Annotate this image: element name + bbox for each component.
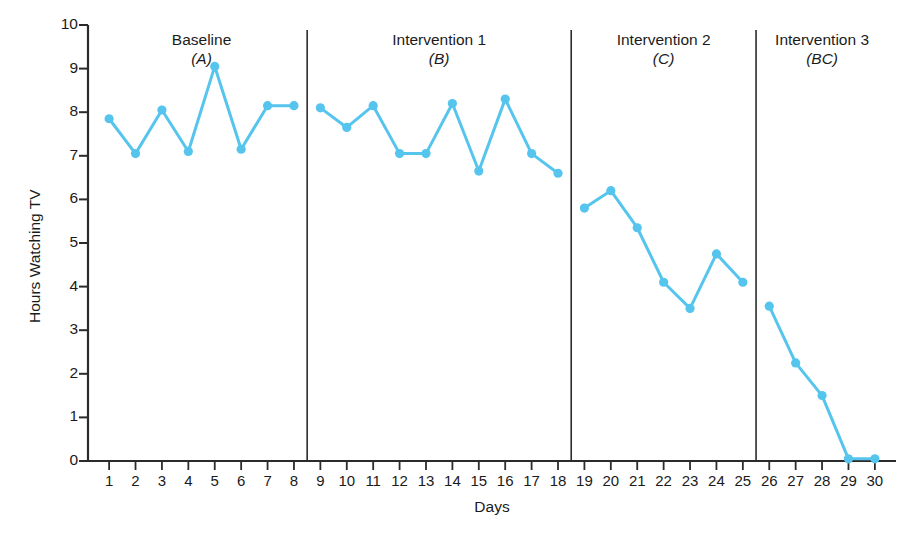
data-point (105, 114, 114, 123)
data-point (421, 149, 430, 158)
y-tick-label: 2 (30, 364, 78, 382)
x-tick-label: 27 (782, 472, 810, 489)
y-tick-label: 9 (30, 59, 78, 77)
data-point (263, 101, 272, 110)
data-point (289, 101, 298, 110)
single-subject-line-chart: 0123456789101234567891011121314151617181… (0, 0, 914, 539)
x-tick-label: 29 (834, 472, 862, 489)
data-point (131, 149, 140, 158)
y-tick-label: 8 (30, 102, 78, 120)
data-point (659, 278, 668, 287)
x-tick-label: 7 (254, 472, 282, 489)
data-point (157, 105, 166, 114)
x-tick-label: 19 (570, 472, 598, 489)
x-tick-label: 1 (95, 472, 123, 489)
x-tick-label: 30 (861, 472, 889, 489)
data-point (685, 304, 694, 313)
data-point (633, 223, 642, 232)
data-point (501, 95, 510, 104)
x-tick-label: 18 (544, 472, 572, 489)
data-point (712, 249, 721, 258)
data-point (765, 302, 774, 311)
x-tick-label: 16 (491, 472, 519, 489)
phase-label-intervention-1: Intervention 1(B) (329, 30, 549, 68)
data-point (606, 186, 615, 195)
x-tick-label: 3 (148, 472, 176, 489)
data-point (342, 123, 351, 132)
x-tick-label: 15 (465, 472, 493, 489)
data-point (870, 454, 879, 463)
data-point (316, 103, 325, 112)
data-point (844, 454, 853, 463)
chart-canvas (0, 0, 914, 539)
y-tick-label: 10 (30, 15, 78, 33)
data-point (527, 149, 536, 158)
data-point (738, 278, 747, 287)
x-tick-label: 12 (386, 472, 414, 489)
x-tick-label: 9 (306, 472, 334, 489)
phase-name: Baseline (92, 30, 312, 49)
phase-label-intervention-3: Intervention 3(BC) (712, 30, 914, 68)
data-point (791, 358, 800, 367)
phase-label-baseline: Baseline(A) (92, 30, 312, 68)
y-tick-label: 1 (30, 407, 78, 425)
phase-code: (BC) (712, 49, 914, 68)
phase-name: Intervention 1 (329, 30, 549, 49)
phase-code: (B) (329, 49, 549, 68)
x-tick-label: 13 (412, 472, 440, 489)
phase-name: Intervention 3 (712, 30, 914, 49)
data-point (553, 169, 562, 178)
x-tick-label: 4 (174, 472, 202, 489)
x-tick-label: 14 (438, 472, 466, 489)
data-point (395, 149, 404, 158)
data-point (184, 147, 193, 156)
x-tick-label: 5 (201, 472, 229, 489)
x-tick-label: 8 (280, 472, 308, 489)
phase-code: (A) (92, 49, 312, 68)
x-tick-label: 6 (227, 472, 255, 489)
data-line-intervention-3 (769, 306, 875, 459)
x-tick-label: 20 (597, 472, 625, 489)
data-point (448, 99, 457, 108)
x-tick-label: 28 (808, 472, 836, 489)
data-point (237, 145, 246, 154)
x-tick-label: 23 (676, 472, 704, 489)
x-tick-label: 26 (755, 472, 783, 489)
x-tick-label: 25 (729, 472, 757, 489)
data-line-intervention-2 (584, 191, 742, 309)
data-point (580, 204, 589, 213)
y-axis-title: Hours Watching TV (26, 189, 44, 323)
x-tick-label: 22 (650, 472, 678, 489)
data-point (369, 101, 378, 110)
x-tick-label: 24 (702, 472, 730, 489)
x-tick-label: 11 (359, 472, 387, 489)
x-tick-label: 17 (518, 472, 546, 489)
x-tick-label: 10 (333, 472, 361, 489)
data-line-intervention-1 (320, 99, 558, 173)
data-point (474, 166, 483, 175)
y-tick-label: 0 (30, 451, 78, 469)
data-point (817, 391, 826, 400)
x-axis-title: Days (392, 498, 592, 516)
x-tick-label: 21 (623, 472, 651, 489)
x-tick-label: 2 (122, 472, 150, 489)
y-tick-label: 7 (30, 146, 78, 164)
